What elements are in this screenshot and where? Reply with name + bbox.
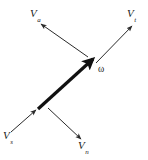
vector-symbol-upper-right: V xyxy=(127,7,134,19)
vector-label-lower-right: Vn xyxy=(78,140,88,154)
vector-symbol-lower-left: V xyxy=(3,129,10,141)
vector-label-lower-left: Vs xyxy=(3,130,12,144)
vector-arrow-lower-right xyxy=(48,108,81,139)
vector-symbol-lower-right: V xyxy=(78,139,85,151)
vector-subscript-upper-right: t xyxy=(134,16,136,24)
vector-subscript-lower-left: s xyxy=(10,138,13,146)
vector-arrow-angular-velocity xyxy=(38,59,93,109)
vector-label-upper-right: Vt xyxy=(127,8,136,22)
vector-symbol-upper-left: V xyxy=(30,7,37,19)
angular-velocity-label: ω xyxy=(98,65,104,75)
vector-diagram-canvas xyxy=(0,0,148,160)
vector-arrow-upper-left xyxy=(41,24,88,57)
vector-label-upper-left: Va xyxy=(30,8,40,22)
vector-arrow-lower-left xyxy=(11,110,36,132)
vector-subscript-upper-left: a xyxy=(37,16,41,24)
vector-diagram-figure: Va Vt Vs Vn ω xyxy=(0,0,148,160)
vector-subscript-lower-right: n xyxy=(85,148,89,156)
vector-arrow-upper-right xyxy=(96,26,132,63)
